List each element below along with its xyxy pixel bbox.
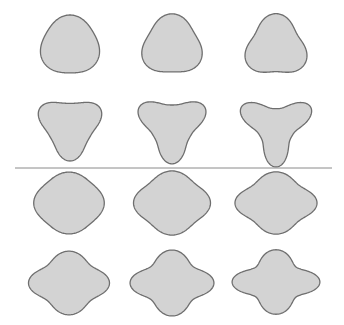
shape-figure <box>0 0 344 325</box>
